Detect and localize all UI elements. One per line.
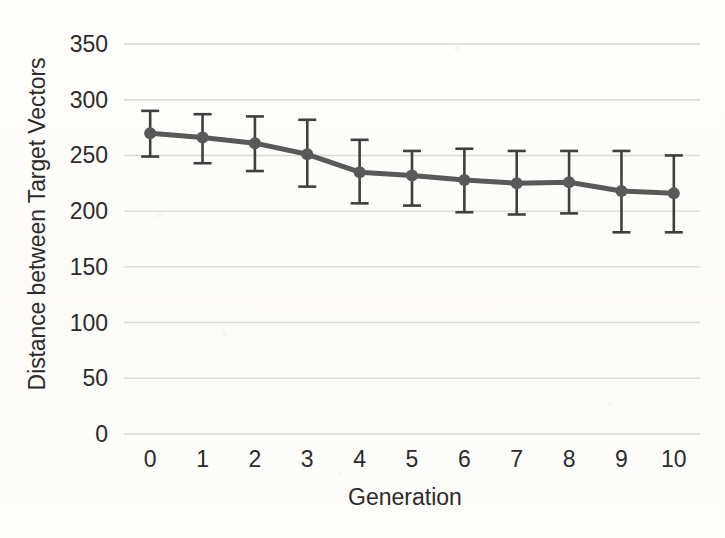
- data-point-marker: [301, 148, 313, 160]
- data-point-marker: [249, 137, 261, 149]
- chart-figure: Distance between Target Vectors 05010015…: [0, 0, 725, 538]
- x-axis-tick-label: 9: [615, 446, 628, 473]
- data-point-marker: [144, 127, 156, 139]
- x-axis-title: Generation: [125, 484, 685, 511]
- gridlines: [124, 44, 700, 434]
- x-axis-tick-label: 4: [353, 446, 366, 473]
- x-axis-tick-label: 3: [301, 446, 314, 473]
- data-point-marker: [615, 185, 627, 197]
- data-point-marker: [458, 174, 470, 186]
- data-point-marker: [406, 169, 418, 181]
- x-axis-tick-label: 1: [196, 446, 209, 473]
- x-axis-tick-label: 7: [510, 446, 523, 473]
- x-axis-tick-label: 5: [406, 446, 419, 473]
- data-point-marker: [668, 187, 680, 199]
- x-axis-tick-label: 10: [661, 446, 687, 473]
- data-point-marker: [354, 166, 366, 178]
- x-axis-tick-label: 0: [144, 446, 157, 473]
- x-axis-tick-label: 6: [458, 446, 471, 473]
- x-axis-tick-label: 8: [563, 446, 576, 473]
- x-axis-tick-label: 2: [249, 446, 262, 473]
- data-point-marker: [563, 176, 575, 188]
- data-point-marker: [511, 177, 523, 189]
- data-point-marker: [197, 132, 209, 144]
